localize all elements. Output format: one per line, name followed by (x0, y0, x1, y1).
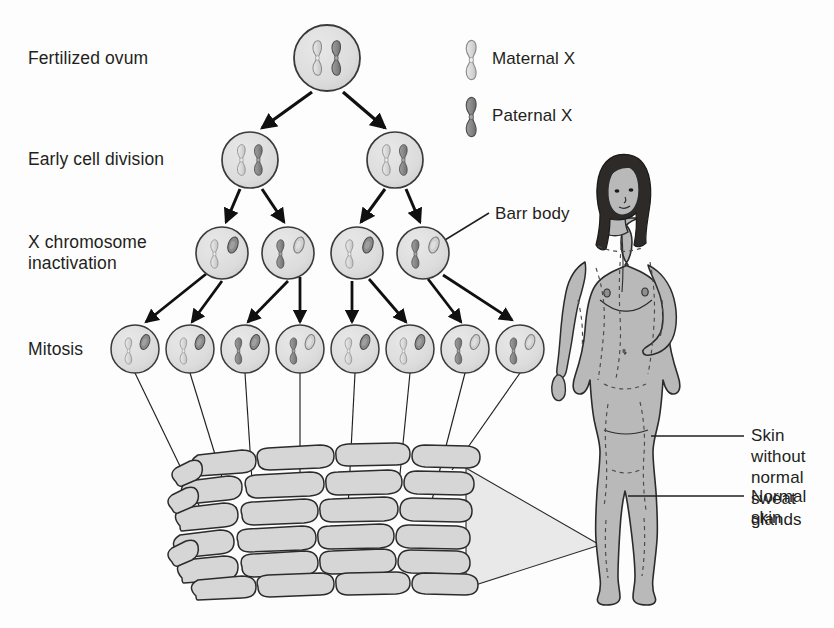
cell-mitosis-8 (496, 325, 544, 373)
cell-inactivation-4 (397, 227, 449, 279)
cell-inactivation-3 (331, 227, 383, 279)
cell-mitosis-1 (111, 325, 159, 373)
cell-mitosis-5 (331, 325, 379, 373)
cell-mitosis-4 (276, 325, 324, 373)
callout-label-barr-body: Barr body (495, 203, 570, 224)
cell-mitosis-2 (166, 325, 214, 373)
cell-early-division-1 (222, 132, 278, 188)
diagram-canvas: Fertilized ovum Early cell division X ch… (0, 0, 834, 628)
stage-label-mitosis: Mitosis (28, 339, 83, 360)
stage-label-early-cell-division: Early cell division (28, 149, 164, 170)
diagram-artwork (0, 0, 834, 628)
magnification-cone (466, 468, 600, 588)
arrows-division-to-inactivation (226, 189, 420, 222)
legend-label-maternal-x: Maternal X (492, 48, 575, 69)
stage-label-fertilized-ovum: Fertilized ovum (28, 48, 148, 69)
callout-label-normal-skin: Normal skin (751, 486, 834, 528)
cell-inactivation-2 (262, 227, 314, 279)
arrows-ovum-to-division (262, 92, 385, 128)
stage-label-x-inactivation: X chromosome inactivation (28, 232, 147, 274)
cell-mitosis-3 (221, 325, 269, 373)
cell-mitosis-7 (441, 325, 489, 373)
cell-inactivation-1 (196, 227, 248, 279)
cell-early-division-2 (367, 132, 423, 188)
skin-tissue-block (168, 443, 480, 600)
cell-fertilized-ovum (294, 25, 360, 91)
legend-label-paternal-x: Paternal X (492, 105, 572, 126)
legend-glyph-paternal (466, 97, 476, 136)
cell-mitosis-6 (386, 325, 434, 373)
arrows-inactivation-to-mitosis (146, 274, 512, 322)
legend-glyph-maternal (466, 40, 476, 79)
